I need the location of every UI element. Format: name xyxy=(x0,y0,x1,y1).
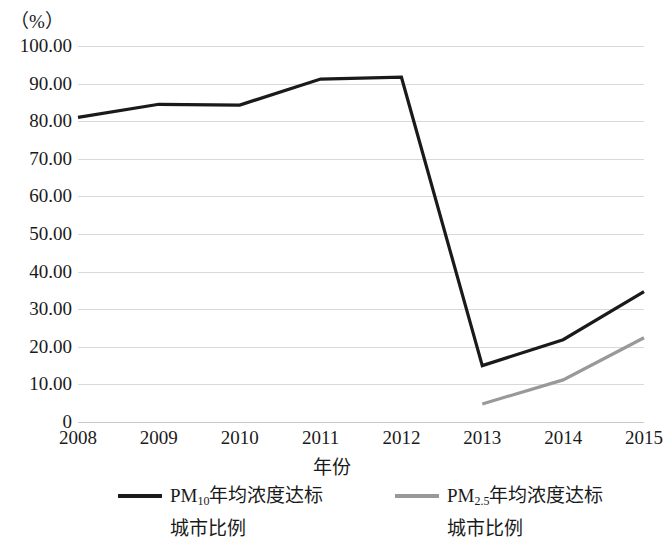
legend-label-pm25: PM2.5年均浓度达标 城市比例 xyxy=(447,482,603,542)
legend-pm10-subscript: 10 xyxy=(197,494,209,508)
y-axis-tick-label: 70.00 xyxy=(2,149,72,168)
gridline xyxy=(78,422,644,423)
legend-pm10-prefix: PM xyxy=(170,485,197,506)
legend-pm25-prefix: PM xyxy=(447,485,474,506)
line-pm25 xyxy=(482,338,644,404)
legend-pm25-subscript: 2.5 xyxy=(474,494,489,508)
x-axis-tick-label: 2013 xyxy=(447,426,517,450)
legend-swatch-pm10 xyxy=(118,494,162,498)
plot-area xyxy=(78,46,644,422)
y-axis-tick-label: 80.00 xyxy=(2,111,72,130)
legend-pm25-line1: 年均浓度达标 xyxy=(489,485,603,506)
y-axis-tick-label: 10.00 xyxy=(2,374,72,393)
x-axis-tick-label: 2010 xyxy=(205,426,275,450)
x-axis-tick-labels: 20082009201020112012201320142015 xyxy=(78,426,644,454)
y-axis-tick-label: 60.00 xyxy=(2,186,72,205)
legend-pm25-line2: 城市比例 xyxy=(447,518,523,539)
y-axis-tick-label: 50.00 xyxy=(2,224,72,243)
y-axis-tick-label: 100.00 xyxy=(2,36,72,55)
x-axis-tick-label: 2011 xyxy=(286,426,356,450)
legend-pm10-line1: 年均浓度达标 xyxy=(209,485,323,506)
y-axis-tick-labels: 100.0090.0080.0070.0060.0050.0040.0030.0… xyxy=(0,46,72,422)
chart-container: （%） 100.0090.0080.0070.0060.0050.0040.00… xyxy=(0,0,664,559)
legend-swatch-pm25 xyxy=(395,494,439,498)
y-axis-tick-label: 90.00 xyxy=(2,74,72,93)
legend-label-pm10: PM10年均浓度达标 城市比例 xyxy=(170,482,323,542)
x-axis-tick-label: 2008 xyxy=(43,426,113,450)
line-pm10 xyxy=(78,77,644,365)
x-axis-tick-label: 2015 xyxy=(609,426,664,450)
x-axis-title: 年份 xyxy=(0,452,664,479)
chart-legend: PM10年均浓度达标 城市比例 PM2.5年均浓度达标 城市比例 xyxy=(0,482,664,552)
legend-pm10-line2: 城市比例 xyxy=(170,518,246,539)
y-axis-tick-label: 40.00 xyxy=(2,262,72,281)
x-axis-tick-label: 2014 xyxy=(528,426,598,450)
legend-item-pm10[interactable]: PM10年均浓度达标 城市比例 xyxy=(118,482,323,542)
x-axis-tick-label: 2012 xyxy=(366,426,436,450)
y-axis-unit-label: （%） xyxy=(10,6,64,33)
y-axis-tick-label: 30.00 xyxy=(2,299,72,318)
x-axis-tick-label: 2009 xyxy=(124,426,194,450)
series-lines xyxy=(78,46,644,422)
y-axis-tick-label: 20.00 xyxy=(2,337,72,356)
legend-item-pm25[interactable]: PM2.5年均浓度达标 城市比例 xyxy=(395,482,603,542)
